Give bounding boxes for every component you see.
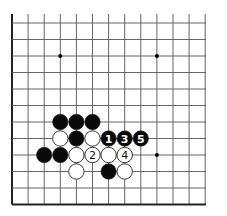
go-board: 13524	[0, 0, 227, 216]
move-number-label: 2	[89, 149, 96, 162]
star-point	[58, 54, 62, 58]
black-stone-1: 1	[101, 131, 116, 146]
black-stone-3: 3	[117, 131, 132, 146]
move-number-label: 3	[121, 133, 129, 146]
star-point	[155, 54, 159, 58]
black-stone	[53, 114, 68, 129]
stone-circle	[85, 114, 100, 129]
stone-circle	[101, 147, 116, 162]
stone-circle	[69, 147, 84, 162]
stone-circle	[117, 164, 132, 179]
stone-circle	[69, 164, 84, 179]
move-number-label: 5	[137, 133, 145, 146]
white-stone-4: 4	[117, 147, 132, 162]
stone-circle	[69, 131, 84, 146]
white-stone	[101, 147, 116, 162]
black-stone	[101, 164, 116, 179]
white-stone	[69, 164, 84, 179]
stone-circle	[69, 114, 84, 129]
stone-circle	[101, 164, 116, 179]
stone-circle	[37, 147, 52, 162]
move-number-label: 1	[105, 133, 113, 146]
white-stone	[117, 164, 132, 179]
black-stone	[37, 147, 52, 162]
black-stone	[69, 131, 84, 146]
stone-circle	[53, 131, 68, 146]
black-stone-5: 5	[133, 131, 148, 146]
stone-circle	[53, 114, 68, 129]
white-stone-2: 2	[85, 147, 100, 162]
white-stone	[53, 131, 68, 146]
star-point	[155, 153, 159, 157]
stone-circle	[85, 131, 100, 146]
black-stone	[53, 147, 68, 162]
white-stone	[69, 147, 84, 162]
move-number-label: 4	[121, 149, 128, 162]
stone-circle	[53, 147, 68, 162]
black-stone	[85, 114, 100, 129]
black-stone	[69, 114, 84, 129]
white-stone	[85, 131, 100, 146]
